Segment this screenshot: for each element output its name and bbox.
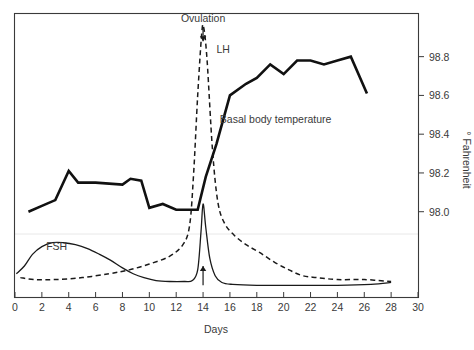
lh-series-label: LH <box>217 43 230 55</box>
y-tick-label-98.4: 98.4 <box>429 128 450 140</box>
x-tick-label-30: 30 <box>412 301 424 313</box>
x-tick-label-8: 8 <box>120 301 126 313</box>
x-tick-label-10: 10 <box>143 301 155 313</box>
x-axis-title: Days <box>204 323 228 335</box>
x-tick-label-16: 16 <box>224 301 236 313</box>
y-tick-label-98.6: 98.6 <box>429 89 450 101</box>
x-tick-label-22: 22 <box>305 301 317 313</box>
x-tick-label-28: 28 <box>385 301 397 313</box>
chart-figure: 024681012141618202224262830 98.098.298.4… <box>0 0 474 350</box>
x-tick-label-6: 6 <box>93 301 99 313</box>
y-axis-title: ° Fahrenheit <box>461 131 473 188</box>
x-tick-label-14: 14 <box>197 301 209 313</box>
x-tick-label-26: 26 <box>358 301 370 313</box>
x-tick-label-0: 0 <box>12 301 18 313</box>
menstrual-cycle-chart: 024681012141618202224262830 98.098.298.4… <box>0 0 474 350</box>
x-tick-label-24: 24 <box>332 301 344 313</box>
fsh-series-label: FSH <box>46 240 67 252</box>
y-tick-label-98.8: 98.8 <box>429 51 450 63</box>
x-tick-label-12: 12 <box>170 301 182 313</box>
x-tick-label-18: 18 <box>251 301 263 313</box>
bbt-series-label: Basal body temperature <box>220 113 332 125</box>
x-tick-label-20: 20 <box>278 301 290 313</box>
y-tick-label-98.0: 98.0 <box>429 206 450 218</box>
x-tick-label-2: 2 <box>39 301 45 313</box>
ovulation-annotation-label: Ovulation <box>181 12 226 24</box>
y-tick-label-98.2: 98.2 <box>429 167 450 179</box>
x-tick-label-4: 4 <box>66 301 72 313</box>
